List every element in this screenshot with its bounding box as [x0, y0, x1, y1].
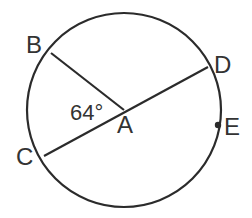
label-d: D [214, 51, 231, 78]
label-b: B [26, 31, 42, 58]
label-a: A [117, 111, 133, 138]
point-e-dot [215, 122, 221, 128]
circle-diagram: B D C E A 64° [0, 0, 252, 218]
angle-label: 64° [70, 100, 103, 125]
label-c: C [16, 143, 33, 170]
label-e: E [224, 113, 240, 140]
